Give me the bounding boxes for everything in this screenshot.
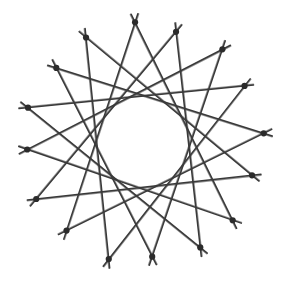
vertex-node <box>173 29 179 35</box>
vertex-node <box>63 227 69 233</box>
vertex-node <box>261 130 267 136</box>
vertex-node <box>149 254 155 260</box>
vertex-node <box>53 65 59 71</box>
vertex-node <box>33 196 39 202</box>
vertex-node <box>241 83 247 89</box>
vertex-node <box>219 46 225 52</box>
star-polygon-canvas: Star polygon line figure A sixteen-point… <box>0 0 284 285</box>
vertex-node <box>230 217 236 223</box>
vertex-node <box>197 244 203 250</box>
vertex-node <box>132 19 138 25</box>
vertex-node <box>106 256 112 262</box>
star-polygon-figure: Star polygon line figure A sixteen-point… <box>0 0 284 285</box>
vertex-node <box>24 146 30 152</box>
vertex-node <box>25 105 31 111</box>
vertex-node <box>249 172 255 178</box>
vertex-node <box>83 34 89 40</box>
